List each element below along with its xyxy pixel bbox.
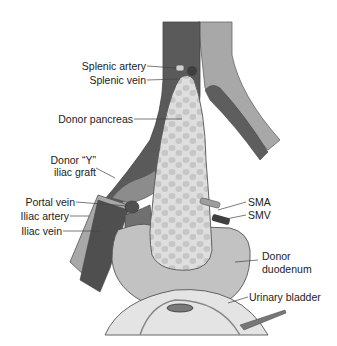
donor-pancreas [150,75,212,270]
label-splenic-vein: Splenic vein [70,74,146,86]
label-iliac-vein: Iliac vein [4,225,62,237]
label-donor-pancreas: Donor pancreas [40,113,133,125]
portal-vein [125,201,139,213]
label-urinary-bladder: Urinary bladder [249,291,321,303]
label-splenic-artery: Splenic artery [70,60,146,72]
label-iliac-artery: Iliac artery [4,210,69,222]
label-donor-duodenum-line2: duodenum [262,263,312,275]
label-portal-vein: Portal vein [10,196,75,208]
label-smv: SMV [248,209,271,221]
label-donor-y-graft-line2: iliac graft [30,166,96,178]
label-donor-y-graft-line1: Donor “Y” [30,154,96,166]
label-sma: SMA [248,196,271,208]
label-donor-duodenum-line1: Donor [262,250,291,262]
